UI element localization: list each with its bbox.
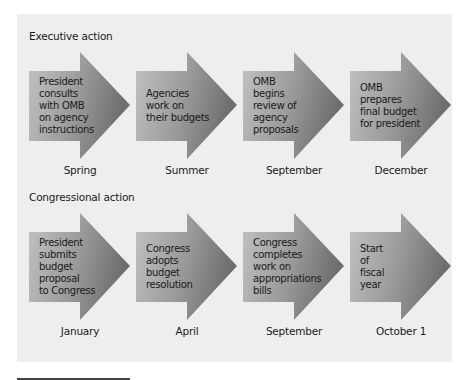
step-description: Congress adopts budget resolution xyxy=(146,243,193,291)
step-arrow: OMB prepares final budget for president xyxy=(350,52,451,159)
step-arrow: Start of fiscal year xyxy=(350,213,451,320)
step-time-label: April xyxy=(137,325,237,337)
step-time-label: September xyxy=(244,164,344,176)
step-description: OMB begins review of agency proposals xyxy=(253,76,298,136)
section-title-congressional: Congressional action xyxy=(29,191,135,203)
step-arrow: Congress adopts budget resolution xyxy=(136,213,237,320)
step-description: President consults with OMB on agency in… xyxy=(39,76,94,136)
step-arrow: President consults with OMB on agency in… xyxy=(29,52,130,159)
step-description: Congress completes work on appropriation… xyxy=(253,237,321,297)
step-description: Start of fiscal year xyxy=(360,243,384,291)
step-description: Agencies work on their budgets xyxy=(146,88,209,124)
step-time-label: September xyxy=(244,325,344,337)
step-arrow: President submits budget proposal to Con… xyxy=(29,213,130,320)
step-arrow: Congress completes work on appropriation… xyxy=(243,213,344,320)
step-description: OMB prepares final budget for president xyxy=(360,82,420,130)
step-arrow: OMB begins review of agency proposals xyxy=(243,52,344,159)
step-time-label: Summer xyxy=(137,164,237,176)
step-arrow: Agencies work on their budgets xyxy=(136,52,237,159)
step-time-label: Spring xyxy=(30,164,130,176)
step-time-label: December xyxy=(351,164,451,176)
step-time-label: January xyxy=(30,325,130,337)
step-time-label: October 1 xyxy=(351,325,451,337)
section-title-executive: Executive action xyxy=(29,30,113,42)
step-description: President submits budget proposal to Con… xyxy=(39,237,95,297)
